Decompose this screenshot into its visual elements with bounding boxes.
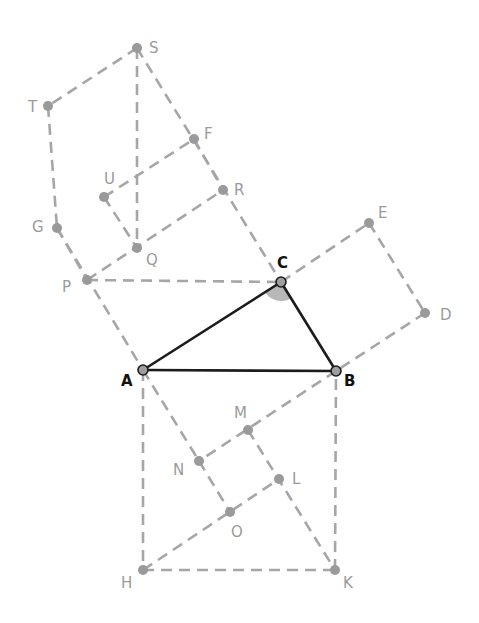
label-A: A [121,372,133,390]
label-R: R [234,181,244,199]
segment-DB [336,313,425,371]
point-B [331,366,341,376]
point-S [132,43,142,53]
segment-UF [104,139,194,197]
label-G: G [32,218,44,236]
label-S: S [149,39,159,57]
point-N [194,456,204,466]
label-C: C [277,254,288,272]
label-U: U [104,170,115,188]
pythagorean-dissection-diagram: STFURGQPEDMNLOHKABC [0,0,479,623]
label-K: K [343,574,354,592]
point-F [189,134,199,144]
side-CA [143,282,281,370]
segment-AN [143,370,199,461]
label-P: P [62,278,71,296]
label-H: H [121,574,132,592]
label-E: E [378,204,387,222]
segment-MK [248,430,335,570]
label-T: T [27,98,38,116]
segment-NO [199,461,230,512]
segment-ED [369,223,425,313]
segment-UQ [104,197,137,248]
label-N: N [173,461,184,479]
point-R [218,185,228,195]
segment-KB [335,371,336,570]
point-U [99,192,109,202]
point-K [330,565,340,575]
label-D: D [440,306,452,324]
label-B: B [344,372,355,390]
segment-GP [57,228,87,280]
label-Q: Q [146,251,158,269]
segment-HL [143,479,279,570]
side-AB [143,370,336,371]
point-O [225,507,235,517]
segment-ST [48,48,137,106]
point-L [274,474,284,484]
point-C [276,277,286,287]
label-O: O [231,523,243,541]
label-M: M [234,404,247,422]
point-labels: STFURGQPEDMNLOHKABC [27,39,452,592]
side-BC [281,282,336,371]
segment-CE [281,223,369,282]
point-H [138,565,148,575]
segment-PC [87,280,281,282]
point-G [52,223,62,233]
label-L: L [292,470,301,488]
point-P [82,275,92,285]
point-A [138,365,148,375]
segment-BN [199,371,336,461]
point-T [43,101,53,111]
point-Q [132,243,142,253]
segment-SC [137,48,281,282]
point-D [420,308,430,318]
point-M [243,425,253,435]
label-F: F [204,125,213,143]
point-E [364,218,374,228]
triangle-sides [143,282,336,371]
segment-TG [48,106,57,228]
